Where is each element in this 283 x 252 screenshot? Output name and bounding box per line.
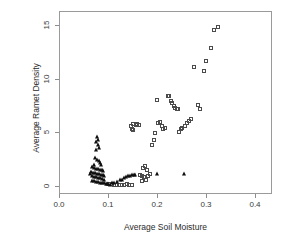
y-axis-tick-label: 5: [42, 126, 51, 138]
data-point-square: [209, 46, 213, 50]
y-axis-tick: [55, 186, 59, 187]
data-point-square: [153, 131, 157, 135]
data-point-square: [144, 178, 148, 182]
data-point-square: [137, 123, 141, 127]
data-point-square: [192, 65, 196, 69]
x-axis-tick: [206, 194, 207, 198]
data-point-square: [202, 69, 206, 73]
data-point-square: [129, 124, 133, 128]
y-axis-tick: [55, 79, 59, 80]
data-point-square: [131, 128, 135, 132]
data-point-triangle: [133, 173, 137, 177]
chart-page: Average Soil Moisture Average Ramet Dens…: [0, 0, 283, 252]
data-point-square: [189, 117, 193, 121]
data-point-square: [148, 172, 152, 176]
y-axis-tick: [55, 25, 59, 26]
y-axis-tick: [55, 132, 59, 133]
x-axis-tick: [255, 194, 256, 198]
data-point-square: [198, 107, 202, 111]
data-point-square: [216, 25, 220, 29]
x-axis-label: Average Soil Moisture: [59, 222, 272, 232]
data-point-triangle: [110, 181, 114, 185]
y-axis-label: Average Ramet Density: [31, 28, 41, 188]
x-axis-tick: [157, 194, 158, 198]
data-point-square: [140, 179, 144, 183]
data-point-triangle: [182, 172, 186, 176]
data-point-square: [212, 28, 216, 32]
data-point-triangle: [94, 148, 98, 152]
x-axis-tick-label: 0.2: [151, 200, 162, 209]
data-point-triangle: [155, 172, 159, 176]
y-axis-tick-label: 10: [42, 73, 51, 85]
data-point-square: [150, 143, 154, 147]
data-point-square: [155, 98, 159, 102]
x-axis-tick-label: 0.3: [200, 200, 211, 209]
data-point-square: [130, 183, 134, 187]
x-axis-tick: [59, 194, 60, 198]
y-axis-tick-label: 15: [42, 19, 51, 31]
data-point-triangle: [99, 163, 103, 167]
y-axis-tick-label: 0: [42, 180, 51, 192]
data-point-square: [163, 126, 167, 130]
x-axis-tick-label: 0.4: [249, 200, 260, 209]
x-axis-tick-label: 0.1: [102, 200, 113, 209]
data-point-square: [152, 138, 156, 142]
data-point-square: [176, 107, 180, 111]
data-point-square: [204, 59, 208, 63]
x-axis-tick: [108, 194, 109, 198]
x-axis-tick-label: 0.0: [53, 200, 64, 209]
